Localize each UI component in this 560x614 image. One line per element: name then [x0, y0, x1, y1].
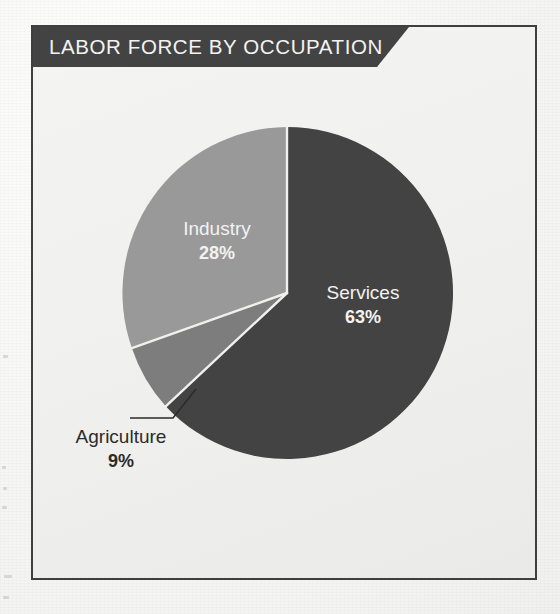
- pie-chart-svg: Services 63% Industry 28% Agriculture 9%: [33, 27, 539, 582]
- page-canvas: LABOR FORCE BY OCCUPATION Services 63%: [0, 0, 560, 614]
- scan-artifact-mark: [2, 506, 7, 509]
- scan-artifact-mark: [3, 355, 8, 358]
- scan-artifact-mark: [4, 575, 12, 578]
- pie-label-agriculture-value: 9%: [108, 451, 134, 471]
- scan-artifact-mark: [3, 487, 7, 490]
- pie-chart: Services 63% Industry 28% Agriculture 9%: [33, 27, 535, 578]
- chart-frame: LABOR FORCE BY OCCUPATION Services 63%: [31, 25, 537, 580]
- scan-artifact-mark: [3, 596, 9, 599]
- pie-label-agriculture-name: Agriculture: [76, 426, 167, 447]
- pie-label-industry-name: Industry: [183, 218, 251, 239]
- pie-label-services-value: 63%: [345, 307, 381, 327]
- pie-label-services-name: Services: [327, 282, 400, 303]
- scan-artifact-mark: [2, 466, 6, 469]
- pie-label-industry-value: 28%: [199, 243, 235, 263]
